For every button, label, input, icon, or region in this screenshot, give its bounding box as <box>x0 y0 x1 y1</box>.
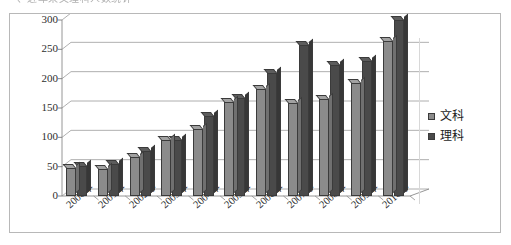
bar-front-face <box>319 99 329 196</box>
bar-wenke <box>130 157 140 196</box>
chart-legend: 文科 理科 <box>428 108 494 148</box>
y-axis-tick-label: 250 <box>24 43 58 54</box>
plot-bars <box>62 20 410 196</box>
figure-frame: 050100150200250300 2000年2001年2002年2003年2… <box>9 13 501 233</box>
legend-swatch-icon <box>428 113 435 120</box>
bar-wenke <box>193 129 203 196</box>
bar-group <box>125 20 157 196</box>
bar-front-face <box>351 83 361 196</box>
bar-group <box>220 20 252 196</box>
legend-item: 文科 <box>428 108 494 125</box>
legend-item: 理科 <box>428 128 494 145</box>
bar-side-face <box>119 158 123 193</box>
bar-side-face <box>203 123 207 193</box>
bar-wenke <box>224 102 234 196</box>
y-axis-tick-labels: 050100150200250300 <box>22 14 58 234</box>
bar-side-face <box>340 59 344 193</box>
bar-side-face <box>361 77 365 193</box>
bar-wenke <box>98 169 108 196</box>
bar-front-face <box>66 168 76 196</box>
bar-side-face <box>266 83 270 193</box>
bar-group <box>315 20 347 196</box>
y-axis-tick-label: 0 <box>24 190 58 201</box>
bar-group <box>189 20 221 196</box>
bar-side-face <box>298 97 302 193</box>
bar-wenke <box>288 103 298 196</box>
bar-side-face <box>372 55 376 193</box>
bar-side-face <box>87 160 91 193</box>
bar-group <box>157 20 189 196</box>
bar-side-face <box>329 92 333 193</box>
bar-side-face <box>171 134 175 193</box>
legend-swatch-icon <box>428 133 435 140</box>
clipped-heading-text: 一、近年来文理科人数统计 <box>6 0 306 4</box>
page-root: 一、近年来文理科人数统计 050100150200250300 2000年200… <box>0 0 511 245</box>
bar-front-face <box>224 102 234 196</box>
bar-wenke <box>256 89 266 196</box>
bar-side-face <box>76 162 80 193</box>
chart-area: 050100150200250300 2000年2001年2002年2003年2… <box>10 14 502 234</box>
y-axis-tick-label: 100 <box>24 131 58 142</box>
bar-side-face <box>182 134 186 193</box>
y-axis-tick-label: 150 <box>24 102 58 113</box>
bar-side-face <box>309 39 313 193</box>
bar-group <box>347 20 379 196</box>
bar-side-face <box>108 163 112 193</box>
bar-group <box>94 20 126 196</box>
bar-wenke <box>351 83 361 196</box>
y-axis-tick-label: 200 <box>24 73 58 84</box>
bar-side-face <box>151 145 155 193</box>
bar-front-face <box>288 103 298 196</box>
y-axis-tick-label: 50 <box>24 161 58 172</box>
bar-wenke <box>161 140 171 196</box>
bar-side-face <box>234 96 238 193</box>
bar-group <box>62 20 94 196</box>
bar-front-face <box>383 41 393 196</box>
bar-wenke <box>383 41 393 196</box>
legend-item-label: 文科 <box>440 110 464 123</box>
bar-group <box>283 20 315 196</box>
bar-side-face <box>404 14 408 193</box>
bar-front-face <box>130 157 140 196</box>
bar-group <box>252 20 284 196</box>
bar-side-face <box>277 67 281 193</box>
legend-item-label: 理科 <box>440 130 464 143</box>
bar-wenke <box>319 99 329 196</box>
legend-divider <box>419 38 420 204</box>
bar-front-face <box>98 169 108 196</box>
bar-front-face <box>161 140 171 196</box>
y-axis-tick-label: 300 <box>24 14 58 25</box>
bar-front-face <box>193 129 203 196</box>
bar-wenke <box>66 168 76 196</box>
bar-side-face <box>245 92 249 193</box>
bar-side-face <box>214 110 218 193</box>
bar-side-face <box>393 34 397 193</box>
x-axis-tick-labels: 2000年2001年2002年2003年2004年2005年2006年2007年… <box>62 200 422 240</box>
bar-front-face <box>256 89 266 196</box>
bar-group <box>378 20 410 196</box>
